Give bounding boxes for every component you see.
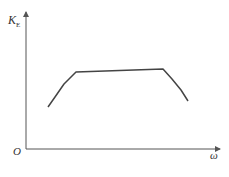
y-axis-label: KE (8, 14, 20, 29)
y-axis-label-main: K (8, 13, 16, 27)
y-axis-label-subscript: E (16, 21, 20, 29)
x-axis-label: ω (210, 150, 218, 161)
diagram-canvas (0, 0, 229, 177)
response-curve (48, 69, 188, 107)
origin-label: O (13, 146, 21, 157)
